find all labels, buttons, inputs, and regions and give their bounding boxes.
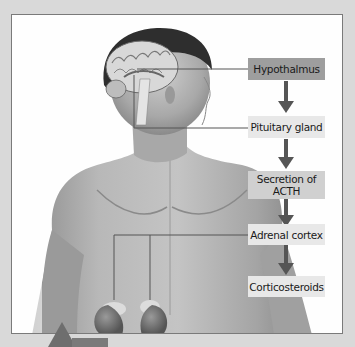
page-tab-triangle-icon [48, 322, 108, 347]
step-label: Pituitary gland [251, 121, 323, 133]
step-pituitary-gland: Pituitary gland [248, 116, 325, 138]
step-adrenal-cortex: Adrenal cortex [248, 224, 325, 245]
step-acth-secretion: Secretion of ACTH [248, 171, 325, 199]
step-label: Adrenal cortex [250, 229, 322, 241]
step-label: Hypothalmus [253, 63, 319, 75]
step-label: Corticosteroids [249, 281, 323, 293]
step-hypothalamus: Hypothalmus [248, 58, 325, 80]
step-corticosteroids: Corticosteroids [248, 276, 325, 297]
step-label: Secretion of ACTH [257, 173, 316, 197]
figure-frame: Hypothalmus Pituitary gland Secretion of… [11, 14, 343, 334]
head-icon [104, 28, 212, 135]
